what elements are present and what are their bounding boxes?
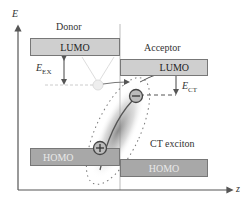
donor-lumo-box: LUMO bbox=[30, 38, 120, 56]
acceptor-title: Acceptor bbox=[144, 42, 181, 53]
donor-homo-label: HOMO bbox=[43, 152, 74, 163]
exciton-state bbox=[93, 80, 103, 90]
donor-homo-box: HOMO bbox=[30, 148, 120, 166]
acceptor-homo-box: HOMO bbox=[120, 159, 208, 177]
position-axis-label: z bbox=[236, 183, 240, 194]
acceptor-lumo-label: LUMO bbox=[160, 62, 189, 73]
exciton-wavefunction bbox=[82, 57, 114, 83]
donor-title: Donor bbox=[56, 21, 82, 32]
ect-label: ECT bbox=[182, 80, 197, 94]
ct-exciton-label: CT exciton bbox=[150, 138, 195, 149]
acceptor-lumo-box: LUMO bbox=[120, 59, 208, 76]
transfer-arrow bbox=[103, 82, 127, 84]
eex-label: EEX bbox=[36, 62, 51, 76]
donor-lumo-label: LUMO bbox=[60, 42, 89, 53]
acceptor-homo-label: HOMO bbox=[149, 163, 180, 174]
energy-axis-label: E bbox=[12, 8, 18, 19]
